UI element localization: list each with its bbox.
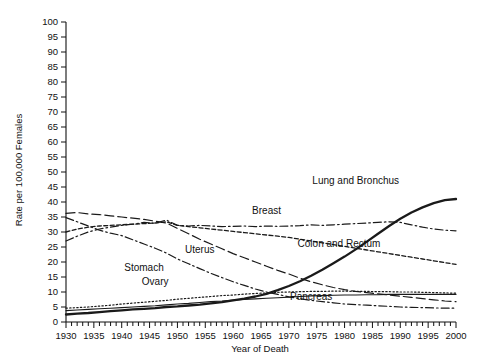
series-line-pancreas [66, 294, 456, 310]
x-tick-label: 1975 [306, 330, 327, 341]
y-tick-label: 60 [47, 136, 58, 147]
x-tick-label: 1955 [195, 330, 216, 341]
y-tick-label: 20 [47, 256, 58, 267]
x-axis: 1930193519401945195019551960196519701975… [55, 322, 466, 341]
y-tick-label: 90 [47, 46, 58, 57]
series-label-breast: Breast [252, 205, 281, 216]
x-tick-label: 2000 [445, 330, 466, 341]
y-tick-label: 65 [47, 121, 58, 132]
x-tick-label: 1960 [223, 330, 244, 341]
y-tick-label: 45 [47, 181, 58, 192]
x-tick-label: 1985 [362, 330, 383, 341]
y-axis-title: Rate per 100,000 Females [13, 114, 24, 227]
series-label-stomach: Stomach [124, 262, 163, 273]
x-tick-label: 1950 [167, 330, 188, 341]
x-tick-label: 1945 [139, 330, 160, 341]
series-label-colon-and-rectum: Colon and Rectum [298, 238, 381, 249]
y-tick-label: 70 [47, 106, 58, 117]
chart-canvas: 0510152025303540455055606570758085909510… [0, 0, 480, 363]
x-tick-label: 1935 [83, 330, 104, 341]
y-tick-label: 75 [47, 91, 58, 102]
series-line-lung-and-bronchus [66, 199, 456, 315]
series-line-breast [66, 220, 456, 241]
y-tick-label: 10 [47, 286, 58, 297]
x-tick-label: 1930 [55, 330, 76, 341]
y-tick-label: 80 [47, 76, 58, 87]
y-tick-label: 50 [47, 166, 58, 177]
y-tick-label: 30 [47, 226, 58, 237]
cancer-mortality-line-chart: 0510152025303540455055606570758085909510… [0, 0, 480, 363]
series-label-pancreas: Pancreas [290, 291, 332, 302]
series-labels: Lung and BronchusBreastColon and RectumU… [124, 175, 399, 302]
series-label-lung-and-bronchus: Lung and Bronchus [312, 175, 399, 186]
series-label-uterus: Uterus [185, 244, 214, 255]
x-tick-label: 1965 [250, 330, 271, 341]
x-tick-label: 1940 [111, 330, 132, 341]
y-tick-label: 15 [47, 271, 58, 282]
x-tick-label: 1990 [390, 330, 411, 341]
series-line-ovary [66, 291, 456, 308]
x-axis-title: Year of Death [231, 343, 289, 354]
y-tick-label: 100 [42, 16, 58, 27]
y-tick-label: 55 [47, 151, 58, 162]
x-tick-label: 1995 [418, 330, 439, 341]
series-line-colon-and-rectum [66, 222, 456, 265]
x-tick-label: 1970 [278, 330, 299, 341]
y-tick-label: 40 [47, 196, 58, 207]
y-tick-label: 85 [47, 61, 58, 72]
y-axis: 0510152025303540455055606570758085909510… [42, 16, 66, 327]
y-tick-label: 35 [47, 211, 58, 222]
y-tick-label: 95 [47, 31, 58, 42]
series-lines [66, 199, 456, 315]
y-tick-label: 0 [53, 316, 58, 327]
series-label-ovary: Ovary [142, 276, 169, 287]
x-tick-label: 1980 [334, 330, 355, 341]
y-tick-label: 25 [47, 241, 58, 252]
y-tick-label: 5 [53, 301, 58, 312]
